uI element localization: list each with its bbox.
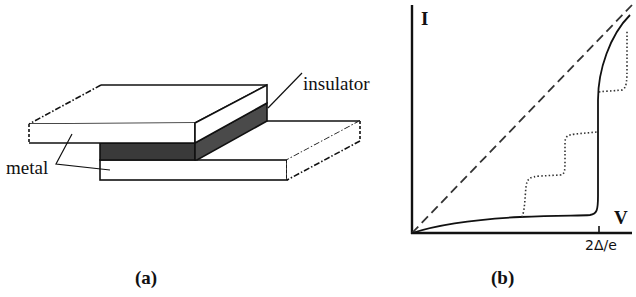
figure: insulator metal I V 2Δ/e (a) (b) [0, 0, 636, 297]
insulator-label: insulator [303, 74, 370, 93]
ohmic-dashed-line [412, 5, 632, 233]
panel-a-caption: (a) [135, 268, 157, 287]
panel-b-caption: (b) [491, 268, 514, 287]
staircase-dotted-curve [522, 30, 627, 217]
gap-voltage-tick-label: 2Δ/e [585, 238, 617, 252]
panel-b-iv-plot [411, 5, 632, 234]
x-axis-label: V [614, 208, 628, 227]
metal-label: metal [6, 158, 48, 177]
figure-canvas [0, 0, 636, 297]
y-axis-label: I [421, 9, 428, 28]
insulator-leader [268, 73, 302, 108]
